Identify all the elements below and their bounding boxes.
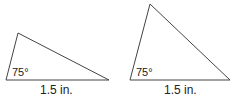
triangle-right-angle-label: 75° bbox=[136, 66, 153, 78]
triangle-left: 75° 1.5 in. bbox=[6, 33, 109, 97]
triangle-right-base-label: 1.5 in. bbox=[164, 83, 197, 97]
triangle-left-base-label: 1.5 in. bbox=[40, 83, 73, 97]
triangle-right: 75° 1.5 in. bbox=[130, 4, 230, 97]
triangles-diagram: 75° 1.5 in. 75° 1.5 in. bbox=[0, 0, 236, 97]
triangle-left-angle-label: 75° bbox=[12, 66, 29, 78]
